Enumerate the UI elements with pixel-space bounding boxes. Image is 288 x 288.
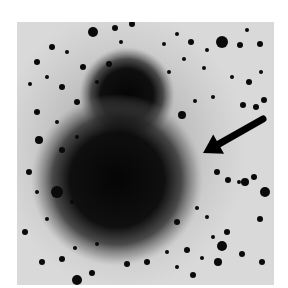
star — [200, 256, 204, 260]
star — [257, 41, 263, 47]
star — [202, 66, 206, 70]
star — [95, 242, 99, 246]
star — [162, 42, 166, 46]
star — [237, 42, 243, 48]
galaxy-image-canvas — [17, 22, 274, 285]
star — [190, 272, 196, 278]
star — [182, 57, 186, 61]
star — [251, 174, 257, 180]
galaxy-lower-lobe — [31, 94, 203, 266]
star — [49, 44, 55, 50]
star — [193, 99, 197, 103]
star — [217, 241, 227, 251]
star — [239, 251, 245, 257]
star — [195, 206, 199, 210]
star — [174, 219, 180, 225]
star — [259, 259, 265, 265]
star — [45, 217, 49, 221]
star — [59, 147, 65, 153]
star — [253, 104, 259, 110]
star — [72, 275, 82, 285]
star — [167, 70, 171, 74]
star — [175, 32, 179, 36]
star — [75, 135, 79, 139]
star — [245, 28, 249, 32]
star — [260, 187, 270, 197]
star — [240, 102, 246, 108]
star — [178, 111, 186, 119]
star — [26, 169, 32, 175]
star — [59, 84, 65, 90]
star — [211, 95, 215, 99]
star — [214, 258, 222, 266]
star — [112, 25, 118, 31]
star — [211, 235, 215, 239]
star — [39, 259, 45, 265]
star — [73, 246, 77, 250]
star — [22, 229, 28, 235]
star — [237, 180, 241, 184]
star — [34, 59, 40, 65]
star — [230, 75, 234, 79]
star — [74, 99, 80, 105]
star — [175, 265, 179, 269]
star — [65, 50, 69, 54]
star — [119, 40, 123, 44]
star — [261, 97, 267, 103]
star — [144, 259, 150, 265]
star — [241, 178, 249, 186]
star — [35, 136, 43, 144]
star — [214, 169, 220, 175]
star — [205, 215, 209, 219]
star — [259, 70, 263, 74]
star — [34, 109, 40, 115]
star — [35, 190, 39, 194]
star — [95, 80, 99, 84]
star — [51, 186, 63, 198]
star — [165, 250, 169, 254]
star — [88, 27, 98, 37]
star — [257, 216, 263, 222]
star — [28, 82, 32, 86]
star — [59, 256, 65, 262]
star — [45, 75, 49, 79]
star — [205, 48, 209, 52]
star — [225, 177, 231, 183]
star — [124, 261, 130, 267]
star — [184, 247, 190, 253]
star — [89, 270, 95, 276]
star — [188, 39, 194, 45]
star — [224, 229, 230, 235]
star — [106, 61, 112, 67]
star — [70, 200, 74, 204]
star — [216, 36, 228, 48]
star — [55, 120, 59, 124]
star — [246, 79, 252, 85]
star — [80, 64, 86, 70]
astronomical-photograph — [17, 22, 274, 285]
